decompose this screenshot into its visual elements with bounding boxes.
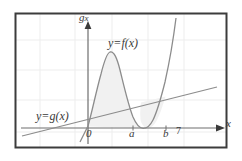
- tick-label-origin: 0: [86, 128, 92, 139]
- y-axis-label: gx: [79, 12, 89, 23]
- curve-g-label: y=g(x): [36, 110, 69, 122]
- y-axis-label-sub: x: [85, 13, 89, 23]
- x-axis-label: x: [226, 118, 231, 129]
- area-between-curves-figure: y=f(x) y=g(x) gx x 0 a b 7: [0, 0, 242, 161]
- tick-label-b: b: [163, 128, 169, 139]
- tick-label-a: a: [129, 128, 135, 139]
- plot-canvas: [0, 0, 242, 161]
- curve-f-label: y=f(x): [108, 37, 138, 49]
- tick-label-seven: 7: [176, 126, 181, 136]
